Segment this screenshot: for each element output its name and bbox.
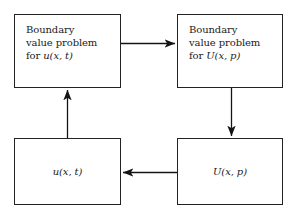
box-label-math: u(x, t) [15,165,120,178]
flowchart-diagram: Boundary value problem for u(x, t) Bound… [0,0,297,215]
box-label-math: U(x, p) [178,165,282,178]
box-line-1: Boundary [189,23,282,36]
box-line-3: for U(x, p) [189,49,282,62]
box-label-block: Boundary value problem for U(x, p) [178,23,282,63]
box-line-1: Boundary [26,23,120,36]
box-line-3-prefix: for [189,50,206,61]
box-solution-transformed: U(x, p) [177,138,283,205]
box-boundary-value-problem-original: Boundary value problem for u(x, t) [14,14,121,88]
box-solution-original: u(x, t) [14,138,121,205]
box-line-3-prefix: for [26,50,43,61]
box-boundary-value-problem-transformed: Boundary value problem for U(x, p) [177,14,283,88]
box-line-2: value problem [26,36,120,49]
box-line-3-math: u(x, t) [43,50,73,61]
box-line-3: for u(x, t) [26,49,120,62]
box-line-2: value problem [189,36,282,49]
box-label-block: Boundary value problem for u(x, t) [15,23,120,63]
box-line-3-math: U(x, p) [206,50,240,61]
